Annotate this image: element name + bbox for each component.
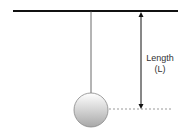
pendulum-bob — [74, 93, 108, 127]
length-label-line1: Length — [142, 53, 178, 64]
arrow-head-up-icon — [139, 12, 144, 17]
arrow-head-down-icon — [139, 104, 144, 109]
length-label-line2: (L) — [142, 64, 178, 75]
length-label: Length (L) — [142, 53, 178, 75]
